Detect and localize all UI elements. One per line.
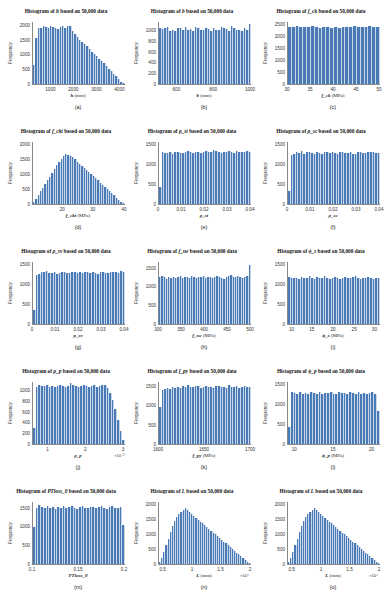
x-tick-label: 20 [60,207,65,212]
histogram-panel-l: Histogram of ϕ_p based on 50,000 data050… [257,360,385,480]
y-tick-label: 500 [261,70,285,75]
x-tick-label: 0 [31,327,34,332]
y-tick-label: 0 [132,202,156,207]
x-tick-label: 0.03 [97,327,106,332]
histogram-bar [249,387,252,444]
x-tick-label: 10 [292,447,297,452]
x-tick-label: 20 [369,447,374,452]
x-tick-label: 300 [154,327,162,332]
plot-area [32,382,125,445]
y-tick-label: 2000 [261,34,285,39]
x-axis-label: L (mm) [287,573,379,578]
y-tick-label: 1000 [132,28,156,33]
y-axis-label: Frequency [134,522,139,544]
x-tick-label: 1.5 [346,567,352,572]
histogram-bar [123,272,126,324]
x-axis-label: ϕ_s (MPa) [287,333,379,338]
x-tick-label: 0.02 [329,207,338,212]
x-tick-label: 1600 [153,447,163,452]
y-tick-label: 0 [132,322,156,327]
x-tick-label: 0 [286,207,289,212]
x-axis-label: ρ_p [32,453,124,458]
x-axis-label: ρ_sv [32,333,124,338]
x-axis-label: ρ_st [158,213,250,218]
y-axis-label: Frequency [263,282,268,304]
x-tick-label: 600 [173,87,181,92]
x-axis-label: PTloss_0 [32,573,124,578]
x-tick-label: 0.2 [121,567,127,572]
histogram-bar [376,27,380,84]
histogram-panel-k: Histogram of f_py based on 50,000 data05… [128,360,256,480]
x-tick-label: 0.02 [74,327,83,332]
histogram-bar [122,525,125,564]
x-tick-label: 30 [284,87,289,92]
x-tick-label: 1000 [245,87,255,92]
panel-caption: (j) [32,464,124,470]
histogram-bar [378,278,381,324]
x-tick-label: 1 [320,567,323,572]
y-tick-label: 0 [261,442,285,447]
chart-title: Histogram of ϕ_p based on 50,000 data [257,368,385,374]
x-tick-label: 30 [372,327,377,332]
y-tick-label: 200 [6,431,30,436]
plot-area [287,22,380,85]
chart-title: Histogram of f_ckt based on 50,000 data [2,128,130,134]
histogram-panel-j: Histogram of ρ_p based on 50,000 data020… [2,360,130,480]
chart-title: Histogram of PTloss_0 based on 50,000 da… [2,488,130,494]
y-tick-label: 0 [6,322,30,327]
histogram-bar [122,440,125,444]
x-tick-label: 2 [378,567,381,572]
x-tick-label: 1700 [245,447,255,452]
x-axis-label: L (mm) [158,573,250,578]
panel-caption: (f) [287,224,379,230]
y-tick-label: 2500 [261,22,285,27]
y-axis-label: Frequency [134,162,139,184]
y-tick-label: 1500 [261,516,285,521]
y-tick-label: 0 [261,322,285,327]
plot-area [158,382,251,445]
chart-title: Histogram of f_py based on 50,000 data [128,368,256,374]
chart-title: Histogram of L based on 50,000 data [128,488,256,494]
panel-caption: (a) [32,104,124,110]
y-tick-label: 2000 [261,501,285,506]
y-tick-label: 0 [261,562,285,567]
plot-area [158,262,251,325]
panel-caption: (n) [158,584,250,590]
y-axis-label: Frequency [8,42,13,64]
y-tick-label: 0 [6,562,30,567]
histogram-bar [377,411,380,444]
x-tick-label: 350 [177,327,185,332]
histogram-panel-a: Histogram of h based on 50,000 data05001… [2,0,130,120]
x-axis-label: ρ_sc [287,213,379,218]
y-tick-label: 2000 [6,22,30,27]
panel-caption: (k) [158,464,250,470]
x-tick-label: 0.03 [223,207,232,212]
panel-caption: (h) [158,344,250,350]
y-tick-label: 0 [261,202,285,207]
x-tick-label: 400 [200,327,208,332]
y-tick-label: 1500 [132,142,156,147]
histogram-bar [378,153,381,204]
panel-caption: (l) [287,464,379,470]
panel-caption: (c) [287,104,379,110]
y-axis-label: Frequency [8,402,13,424]
y-axis-label: Frequency [263,402,268,424]
panel-caption: (i) [287,344,379,350]
y-tick-label: 500 [6,186,30,191]
x-tick-label: 25 [352,327,357,332]
y-axis-label: Frequency [134,402,139,424]
x-tick-label: 1 [46,447,49,452]
chart-title: Histogram of b based on 50,000 data [128,8,256,14]
panel-caption: (m) [32,584,124,590]
x-tick-label: 0.01 [306,207,315,212]
histogram-panel-m: Histogram of PTloss_0 based on 50,000 da… [2,480,130,600]
x-tick-label: 45 [353,87,358,92]
y-tick-label: 500 [6,67,30,72]
plot-area [287,142,380,205]
y-tick-label: 0 [6,82,30,87]
plot-area [287,382,380,445]
x-axis-label: f_sw (MPa) [158,333,250,338]
x-tick-label: 0.1 [29,567,35,572]
x-tick-label: 0 [157,207,160,212]
axis-exponent-label: ×10⁴ [240,573,249,578]
